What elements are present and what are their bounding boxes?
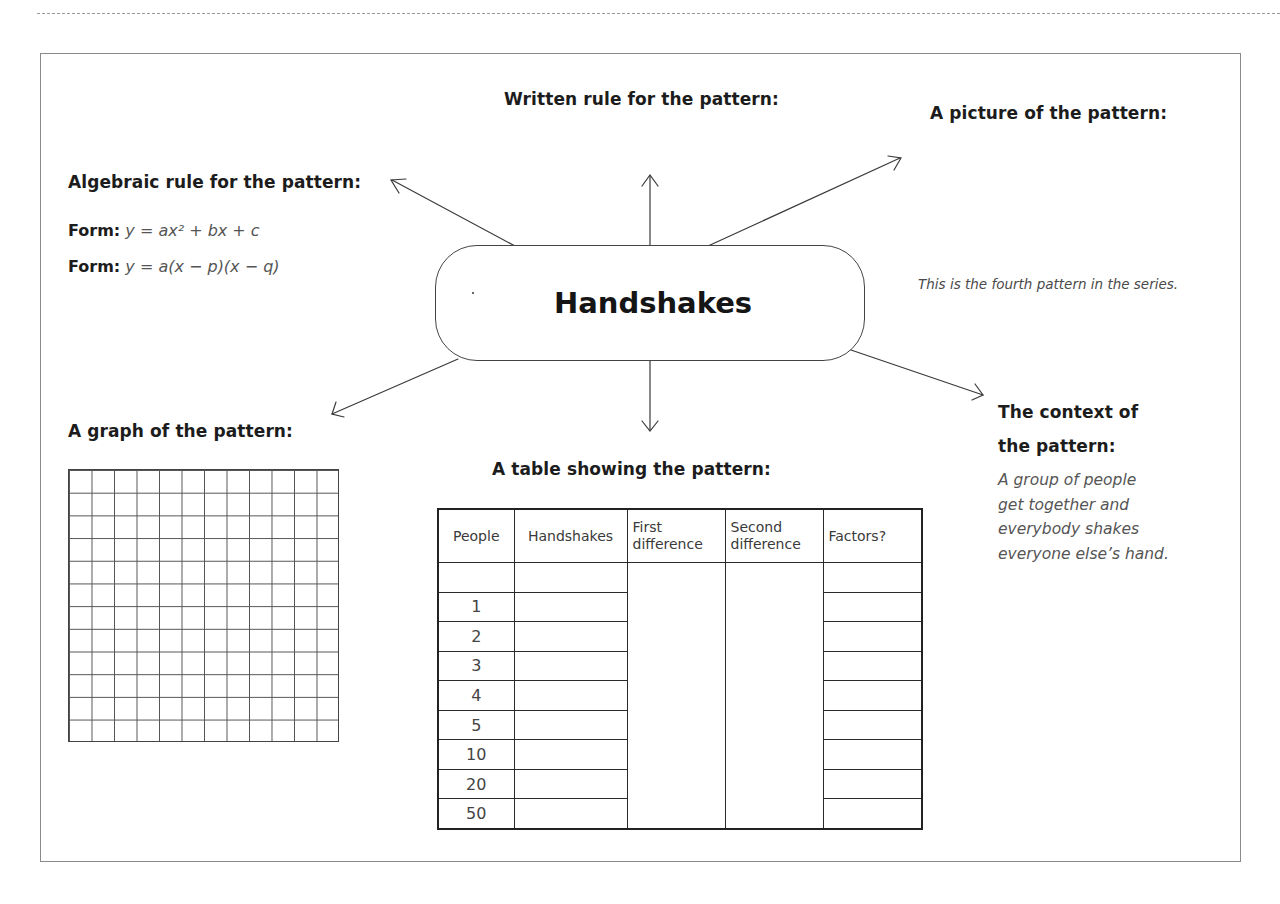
people-cell xyxy=(438,563,514,593)
central-topic-box: Handshakes xyxy=(435,245,865,361)
factors-cell[interactable] xyxy=(823,769,922,799)
handshakes-cell[interactable] xyxy=(514,799,627,829)
col-header-handshakes: Handshakes xyxy=(514,509,627,563)
context-heading-line-1: The context of xyxy=(998,402,1138,422)
people-cell: 2 xyxy=(438,622,514,652)
form-expression-standard: y = ax² + bx + c xyxy=(125,221,259,240)
col-header-people: People xyxy=(438,509,514,563)
form-expression-factored: y = a(x − p)(x − q) xyxy=(125,257,279,276)
table-heading: A table showing the pattern: xyxy=(492,459,771,479)
table-row xyxy=(438,563,922,593)
context-description: A group of people get together and every… xyxy=(998,468,1169,566)
pattern-table: People Handshakes First difference Secon… xyxy=(437,508,923,830)
factors-cell[interactable] xyxy=(823,681,922,711)
context-heading-line-2: the pattern: xyxy=(998,436,1116,456)
written-rule-heading: Written rule for the pattern: xyxy=(504,89,779,109)
context-line: get together and xyxy=(998,493,1169,518)
central-topic-title: Handshakes xyxy=(554,286,752,320)
factors-cell[interactable] xyxy=(823,799,922,829)
factors-cell[interactable] xyxy=(823,710,922,740)
people-cell: 1 xyxy=(438,592,514,622)
factors-cell[interactable] xyxy=(823,622,922,652)
factors-cell[interactable] xyxy=(823,651,922,681)
col-header-first-difference: First difference xyxy=(627,509,725,563)
factors-cell[interactable] xyxy=(823,592,922,622)
handshakes-cell[interactable] xyxy=(514,769,627,799)
picture-heading: A picture of the pattern: xyxy=(930,103,1167,123)
people-cell: 3 xyxy=(438,651,514,681)
col-header-factors: Factors? xyxy=(823,509,922,563)
stray-dot xyxy=(472,292,474,294)
second-difference-cell[interactable] xyxy=(725,563,823,830)
form-factored: Form: y = a(x − p)(x − q) xyxy=(68,257,280,276)
algebraic-rule-heading: Algebraic rule for the pattern: xyxy=(68,172,361,192)
header-line: difference xyxy=(633,536,703,552)
form-label: Form: xyxy=(68,221,120,240)
people-cell: 10 xyxy=(438,740,514,770)
people-cell: 4 xyxy=(438,681,514,711)
first-difference-cell[interactable] xyxy=(627,563,725,830)
graph-grid[interactable] xyxy=(68,469,339,742)
people-cell: 20 xyxy=(438,769,514,799)
graph-heading: A graph of the pattern: xyxy=(68,421,293,441)
context-line: A group of people xyxy=(998,468,1169,493)
handshakes-cell[interactable] xyxy=(514,622,627,652)
handshakes-cell[interactable] xyxy=(514,710,627,740)
form-label: Form: xyxy=(68,257,120,276)
handshakes-cell[interactable] xyxy=(514,740,627,770)
header-line: First xyxy=(633,519,662,535)
context-line: everyone else’s hand. xyxy=(998,542,1169,567)
picture-note: This is the fourth pattern in the series… xyxy=(918,276,1178,292)
col-header-second-difference: Second difference xyxy=(725,509,823,563)
context-line: everybody shakes xyxy=(998,517,1169,542)
header-line: Second xyxy=(731,519,783,535)
page-top-rule xyxy=(37,13,1280,14)
handshakes-cell[interactable] xyxy=(514,592,627,622)
handshakes-cell[interactable] xyxy=(514,681,627,711)
table-header-row: People Handshakes First difference Secon… xyxy=(438,509,922,563)
factors-cell[interactable] xyxy=(823,740,922,770)
form-standard: Form: y = ax² + bx + c xyxy=(68,221,260,240)
handshakes-cell[interactable] xyxy=(514,563,627,593)
people-cell: 5 xyxy=(438,710,514,740)
people-cell: 50 xyxy=(438,799,514,829)
header-line: difference xyxy=(731,536,801,552)
factors-cell[interactable] xyxy=(823,563,922,593)
handshakes-cell[interactable] xyxy=(514,651,627,681)
